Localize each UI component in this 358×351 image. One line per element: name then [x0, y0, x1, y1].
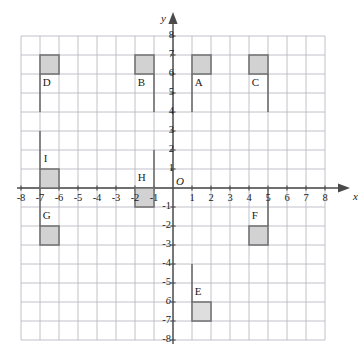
x-tick-label: 4: [240, 192, 258, 203]
y-tick-label: 1: [160, 162, 174, 173]
y-tick-label: 7: [160, 48, 174, 59]
y-tick-label: -4: [157, 257, 171, 268]
shape-square-e: [192, 302, 211, 321]
y-tick-label: -2: [157, 219, 171, 230]
shape-label-d: D: [43, 76, 51, 88]
x-tick-label: -3: [107, 192, 125, 203]
x-axis-arrowhead: [338, 183, 350, 192]
y-tick-label: -8: [157, 333, 171, 344]
y-tick-label: 5: [160, 86, 174, 97]
x-tick-label: 6: [278, 192, 296, 203]
shape-square-g: [40, 226, 59, 245]
x-tick-label: 2: [202, 192, 220, 203]
shape-label-g: G: [43, 209, 51, 221]
shape-square-c: [249, 55, 268, 74]
x-tick-label: 7: [297, 192, 315, 203]
shape-label-c: C: [252, 76, 259, 88]
x-tick-label: -6: [50, 192, 68, 203]
x-tick-label: -5: [69, 192, 87, 203]
x-tick-label: -4: [88, 192, 106, 203]
x-tick-label: -8: [12, 192, 30, 203]
y-tick-label: 6: [160, 67, 174, 78]
shape-label-i: I: [44, 152, 48, 164]
origin-label: O: [176, 175, 184, 187]
shape-label-a: A: [195, 76, 203, 88]
y-axis-label: y: [161, 12, 166, 24]
x-tick-label: -2: [126, 192, 144, 203]
y-tick-label: 4: [160, 105, 174, 116]
shape-label-e: E: [195, 285, 202, 297]
shape-square-d: [40, 55, 59, 74]
x-tick-label: 1: [183, 192, 201, 203]
x-axis-label: x: [353, 190, 358, 202]
x-tick-label: 5: [259, 192, 277, 203]
y-tick-label: 3: [160, 124, 174, 135]
y-axis-arrowhead: [168, 12, 177, 24]
shape-label-f: F: [252, 209, 258, 221]
shape-label-h: H: [138, 171, 146, 183]
y-tick-label: 8: [160, 29, 174, 40]
shape-square-i: [40, 169, 59, 188]
y-tick-label: -7: [157, 314, 171, 325]
x-tick-label: -7: [31, 192, 49, 203]
y-tick-label: -1: [157, 200, 171, 211]
shape-label-b: B: [138, 76, 145, 88]
x-tick-label: 8: [316, 192, 334, 203]
shape-square-f: [249, 226, 268, 245]
y-tick-label: 2: [160, 143, 174, 154]
x-tick-label: 3: [221, 192, 239, 203]
y-tick-label: -5: [157, 276, 171, 287]
shape-square-b: [135, 55, 154, 74]
y-tick-label: 6: [157, 295, 171, 306]
shape-square-a: [192, 55, 211, 74]
y-tick-label: -3: [157, 238, 171, 249]
